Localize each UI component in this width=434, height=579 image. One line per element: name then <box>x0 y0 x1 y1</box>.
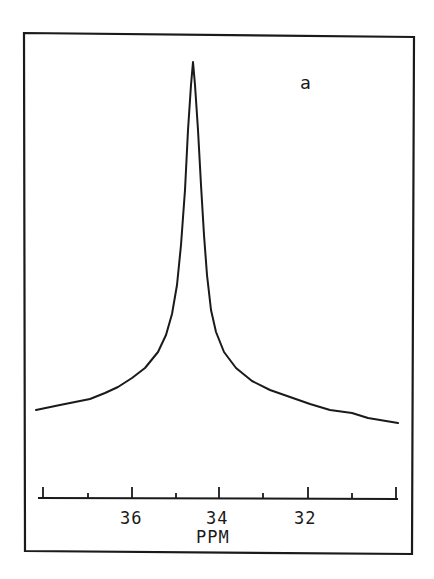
x-axis-label: PPM <box>196 527 230 547</box>
x-tick-label-32: 32 <box>294 508 316 528</box>
chart-frame <box>24 33 414 554</box>
nmr-chart <box>0 0 434 579</box>
x-tick-label-36: 36 <box>120 508 142 528</box>
panel-label: a <box>300 72 312 93</box>
x-axis <box>38 498 398 499</box>
spectrum-line <box>36 62 398 423</box>
x-tick-label-34: 34 <box>206 508 228 528</box>
